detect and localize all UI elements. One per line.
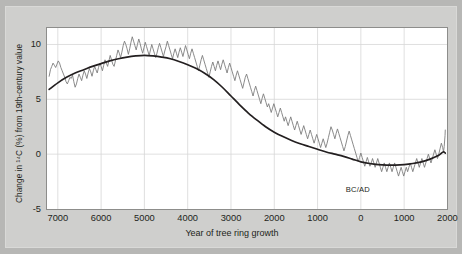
data-series-group bbox=[49, 37, 445, 176]
x-tick-1000-6: 1000 bbox=[298, 214, 338, 223]
y-tick-10: 10 bbox=[15, 40, 41, 49]
x-tick-5000-2: 5000 bbox=[124, 214, 164, 223]
x-axis-title: Year of tree ring growth bbox=[6, 228, 458, 238]
grid-lines bbox=[47, 28, 447, 209]
x-tick-0-7: 0 bbox=[341, 214, 381, 223]
x-tick-7000-0: 7000 bbox=[38, 214, 78, 223]
bc-ad-annotation: BC/AD bbox=[346, 185, 370, 194]
y-tick-5: 5 bbox=[15, 95, 41, 104]
plot-area bbox=[47, 28, 447, 209]
x-tick-6000-1: 6000 bbox=[81, 214, 121, 223]
x-tick-2000-5: 2000 bbox=[254, 214, 294, 223]
figure-canvas: Change in ¹⁴C (%) from 19th-century valu… bbox=[0, 0, 462, 254]
x-tick-3000-4: 3000 bbox=[211, 214, 251, 223]
x-tick-4000-3: 4000 bbox=[168, 214, 208, 223]
x-tick-2000-9: 2000 bbox=[427, 214, 462, 223]
chart-canvas bbox=[47, 28, 447, 209]
plot-frame: BC/AD bbox=[46, 27, 448, 210]
figure-panel: Change in ¹⁴C (%) from 19th-century valu… bbox=[5, 6, 457, 248]
y-axis-title: Change in ¹⁴C (%) from 19th-century valu… bbox=[15, 44, 24, 203]
x-tick-1000-8: 1000 bbox=[384, 214, 424, 223]
y-tick--5: -5 bbox=[15, 205, 41, 214]
y-axis-title-container: Change in ¹⁴C (%) from 19th-century valu… bbox=[6, 7, 24, 217]
y-tick-0: 0 bbox=[15, 150, 41, 159]
series-line-1 bbox=[49, 55, 445, 165]
series-line-0 bbox=[49, 37, 445, 176]
